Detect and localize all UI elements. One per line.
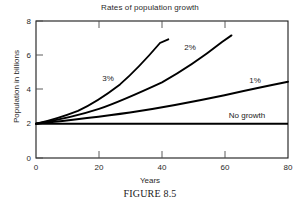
x-axis-label: Years — [0, 176, 300, 185]
figure-container: Rates of population growth Population in… — [0, 0, 300, 202]
y-tick-label-0: 0 — [27, 154, 32, 163]
x-tick-label-40: 40 — [158, 163, 167, 172]
x-tick-label-80: 80 — [284, 163, 293, 172]
series-label-3-percent: 3% — [102, 74, 114, 83]
series-label-no-growth: No growth — [229, 111, 265, 120]
series-label-2-percent: 2% — [184, 43, 196, 52]
figure-caption: FIGURE 8.5 — [0, 188, 300, 199]
x-tick-label-60: 60 — [221, 163, 230, 172]
y-tick-label-4: 4 — [27, 85, 32, 94]
series-label-1-percent: 1% — [249, 76, 261, 85]
x-tick-label-20: 20 — [95, 163, 104, 172]
y-tick-label-8: 8 — [27, 17, 32, 26]
y-axis-ticks — [36, 21, 43, 158]
population-growth-line-chart: 8 6 4 2 0 0 20 40 60 80 3% 2% 1% No grow… — [0, 0, 300, 202]
y-tick-label-2: 2 — [27, 119, 32, 128]
x-tick-label-0: 0 — [34, 163, 39, 172]
y-tick-label-6: 6 — [27, 51, 32, 60]
curve-2-percent — [36, 35, 232, 123]
